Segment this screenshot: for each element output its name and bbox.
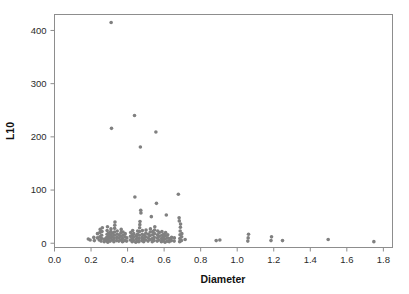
data-point [269,239,273,243]
data-point [152,239,156,243]
y-axis-title: L10 [4,122,16,140]
data-point [101,226,105,230]
data-point [326,238,330,242]
data-point [154,130,158,134]
data-point [139,211,143,215]
data-point [100,230,104,234]
x-tick-label: 0.8 [194,254,207,265]
data-point [113,220,117,224]
data-point [166,233,170,237]
y-tick-label: 200 [31,131,47,142]
data-point [125,239,129,243]
data-point [281,239,285,243]
x-tick-label: 1.4 [304,254,317,265]
data-point [180,239,184,243]
data-point [180,232,184,236]
data-point [177,216,181,220]
data-point [155,202,159,206]
data-point [247,232,251,236]
data-point [152,236,156,240]
data-point [93,239,97,243]
figure-background [0,0,409,294]
y-tick-label: 100 [31,184,47,195]
data-point [141,229,145,233]
data-point [172,239,176,243]
data-point [150,215,154,219]
data-point [92,236,96,240]
data-point [372,240,376,244]
data-point [173,236,177,240]
data-point [270,235,274,239]
y-tick-label: 300 [31,78,47,89]
data-point [139,145,143,149]
data-point [88,238,92,242]
data-point [123,232,127,236]
data-point [153,228,157,232]
x-tick-label: 1.0 [231,254,244,265]
data-point [110,127,114,131]
data-point [180,235,184,239]
data-point [113,223,117,227]
chart-figure: 0.00.20.40.60.81.01.21.41.61.8 010020030… [0,0,409,294]
data-point [218,238,222,242]
x-tick-label: 1.2 [267,254,280,265]
data-point [115,229,119,233]
data-point [165,213,169,217]
data-point [153,232,157,236]
data-point [153,225,157,229]
data-point [109,227,113,231]
x-tick-label: 0.2 [84,254,97,265]
x-tick-label: 0.6 [158,254,171,265]
x-axis-title: Diameter [201,273,246,285]
data-point [125,236,129,240]
data-point [133,114,137,118]
data-point [214,239,218,243]
x-tick-label: 0.0 [48,254,61,265]
data-point [246,236,250,240]
data-point [179,225,183,229]
data-point [138,220,142,224]
data-point [183,238,187,242]
x-tick-label: 0.4 [121,254,134,265]
data-point [138,226,142,230]
scatter-plot-canvas: 0.00.20.40.60.81.01.21.41.61.8 010020030… [0,0,409,294]
x-tick-label: 1.6 [340,254,353,265]
data-point [177,193,181,197]
data-point [138,223,142,227]
y-tick-label: 0 [41,238,46,249]
data-point [100,233,104,237]
data-point [131,229,135,233]
data-point [179,222,183,226]
data-point [113,227,117,231]
data-point [109,21,113,25]
x-tick-label: 1.8 [377,254,390,265]
data-point [246,239,250,243]
data-point [106,225,110,229]
data-point [177,219,181,223]
y-tick-label: 400 [31,25,47,36]
data-point [133,195,137,199]
data-point [144,228,148,232]
